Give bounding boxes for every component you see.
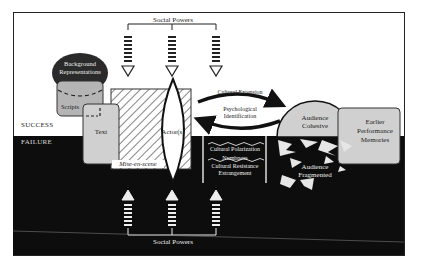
social-powers-bottom-bracket <box>128 228 216 235</box>
psych-line2-label: Identification <box>215 112 265 120</box>
scripts-label: Scripts <box>57 103 83 111</box>
audience-fragmented-line2-label: Fragmented <box>290 171 340 179</box>
social-powers-top-bracket <box>128 24 216 30</box>
dashed-arrow-down-icon <box>166 37 178 76</box>
mise-en-scene-label: Mise-en-scene <box>112 160 164 168</box>
estrangement-label: Estrangement <box>204 169 266 177</box>
social-powers-top-label: Social Powers <box>148 16 198 24</box>
success-label: SUCCESS <box>21 121 53 129</box>
earlier-line3-label: Memories <box>350 136 400 144</box>
social-powers-bottom-label: Social Powers <box>148 238 198 246</box>
cultural-polarization-label: Cultural Polarization <box>204 145 266 153</box>
cultural-extension-label: Cultural Extension <box>210 88 270 96</box>
audience-cohesive-line1-label: Audience <box>290 114 340 122</box>
background-line2-label: Representations <box>52 68 108 76</box>
dashed-arrow-down-icon <box>122 37 134 76</box>
earlier-line1-label: Earlier <box>350 118 400 126</box>
text-label: Text <box>83 128 119 136</box>
dashed-arrow-up-icon <box>166 190 178 225</box>
psychological-identification-arrow-icon <box>200 120 280 128</box>
failure-label: FAILURE <box>21 138 52 146</box>
numbness-label: Numbness <box>204 154 266 162</box>
top-dashed-arrows <box>122 37 222 76</box>
audience-cohesive-line2-label: Cohesive <box>290 122 340 130</box>
actors-label: Actor(s) <box>155 128 191 136</box>
dashed-arrow-down-icon <box>210 37 222 76</box>
bottom-dashed-arrows <box>122 190 222 225</box>
dashed-arrow-up-icon <box>122 190 134 225</box>
earlier-line2-label: Performance <box>350 127 400 135</box>
audience-fragmented-line1-label: Audience <box>290 163 340 171</box>
background-line1-label: Background <box>52 60 108 68</box>
dashed-arrow-up-icon <box>210 190 222 225</box>
